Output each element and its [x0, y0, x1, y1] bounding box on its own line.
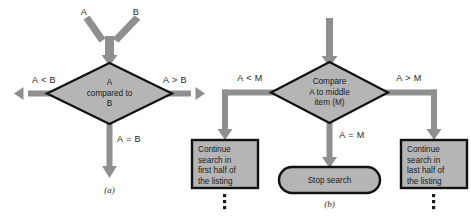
panel-b-branch-down-arrow	[322, 123, 337, 168]
panel-a-decision-line-2: compared to	[87, 89, 133, 98]
panel-a-caption: (a)	[104, 185, 115, 195]
flowchart-figure: A B A < B A > B A = B A compa	[0, 0, 471, 218]
panel-b-outcome-right-line-1: Continue	[407, 145, 440, 154]
panel-b-outcome-stop-search-label: Stop search	[308, 176, 352, 185]
panel-b-decision-line-2: A to middle	[309, 88, 350, 97]
panel-a-decision-line-3: B	[107, 99, 113, 108]
panel-b-decision-line-3: item (M)	[314, 98, 344, 107]
panel-b-continuation-dots-left	[223, 194, 226, 209]
panel-b-outcome-right-line-4: the listing	[407, 177, 442, 186]
panel-b-inbound-arrow	[322, 18, 338, 67]
panel-b-outcome-right-line-2: search in	[407, 156, 441, 165]
panel-a-branch-right-label: A > B	[163, 75, 187, 85]
panel-b-decision-line-1: Compare	[313, 77, 347, 86]
panel-a-branch-left-label: A < B	[32, 75, 56, 85]
panel-b-branch-right-label: A > M	[396, 73, 421, 83]
panel-b-outcome-left-line-2: search in	[198, 156, 232, 165]
panel-a-branch-down-label: A = B	[117, 134, 141, 144]
panel-a: A B A < B A > B A = B A compa	[14, 7, 205, 195]
panel-b-outcome-right-line-3: last half of	[407, 166, 445, 175]
panel-a-branch-down-arrow	[102, 124, 117, 178]
panel-b-branch-left-label: A < M	[237, 73, 262, 83]
panel-a-input-b-label: B	[133, 7, 139, 17]
panel-b-outcome-left-line-1: Continue	[198, 145, 231, 154]
panel-b-outcome-left-line-4: the listing	[198, 177, 233, 186]
panel-b-continuation-dots-right	[432, 194, 435, 209]
panel-b-outcome-left-line-3: first half of	[198, 166, 236, 175]
panel-b: A < M A > M A = M Compare A to middle it…	[192, 18, 467, 209]
flowchart-canvas: A B A < B A > B A = B A compa	[0, 0, 471, 218]
panel-a-decision-line-1: A	[107, 78, 113, 87]
panel-a-input-merge-arrow	[84, 16, 141, 67]
panel-b-branch-down-label: A = M	[339, 130, 364, 140]
panel-a-input-a-label: A	[81, 7, 87, 17]
panel-b-caption: (b)	[324, 199, 335, 209]
